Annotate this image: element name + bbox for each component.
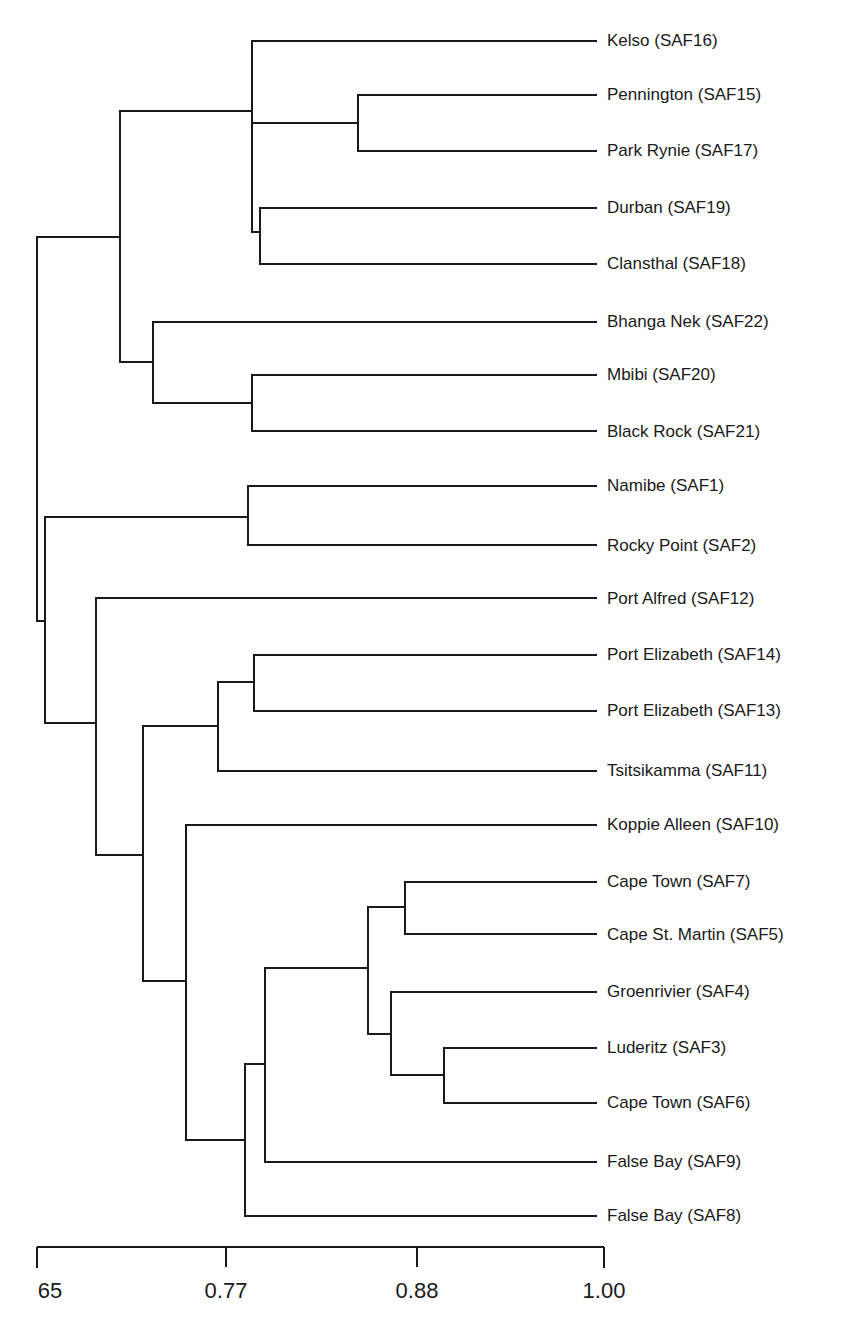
leaf-label: Park Rynie (SAF17): [607, 141, 758, 161]
leaf-label: Groenrivier (SAF4): [607, 982, 750, 1002]
leaf-label: Clansthal (SAF18): [607, 254, 746, 274]
leaf-label: False Bay (SAF9): [607, 1152, 741, 1172]
axis-tick-label: 0.77: [205, 1278, 248, 1304]
node-namibe-rocky: [45, 486, 248, 545]
leaf-label: Koppie Alleen (SAF10): [607, 815, 779, 835]
leaf-label: Tsitsikamma (SAF11): [607, 761, 767, 781]
leaf-label: Kelso (SAF16): [607, 31, 718, 51]
axis-tick-label: 1.00: [583, 1278, 626, 1304]
node-false-bay-9-group: [245, 968, 265, 1162]
node-penn-park: [252, 95, 358, 151]
x-axis: [37, 1247, 604, 1268]
leaf-label: Port Alfred (SAF12): [607, 589, 754, 609]
node-groenrivier-group: [368, 992, 391, 1075]
node-capetown7-stmartin: [368, 882, 405, 934]
node-durban-clansthal: [253, 208, 260, 264]
node-root: [37, 237, 45, 621]
axis-tick-label: 0.88: [396, 1278, 439, 1304]
leaf-label: Pennington (SAF15): [607, 85, 761, 105]
leaf-label: False Bay (SAF8): [607, 1206, 741, 1226]
node-eastcape-group: [143, 726, 186, 981]
leaf-label: Port Elizabeth (SAF14): [607, 645, 781, 665]
leaf-label: Cape St. Martin (SAF5): [607, 925, 784, 945]
axis-tick-label: 65: [38, 1278, 62, 1304]
node-west-coast-group: [265, 907, 368, 1034]
node-port-elizabeth: [218, 655, 254, 711]
leaf-label: Cape Town (SAF6): [607, 1093, 750, 1113]
leaf-label: Mbibi (SAF20): [607, 365, 716, 385]
leaf-label: Cape Town (SAF7): [607, 872, 750, 892]
node-tsitsikamma-group: [143, 682, 218, 771]
leaf-label: Luderitz (SAF3): [607, 1038, 726, 1058]
leaf-label: Black Rock (SAF21): [607, 422, 760, 442]
node-bhanga-group: [120, 322, 153, 403]
node-koppie-group: [186, 825, 245, 1140]
leaf-label: Namibe (SAF1): [607, 476, 724, 496]
leaf-label: Durban (SAF19): [607, 198, 731, 218]
node-port-alfred-group: [96, 598, 143, 855]
leaf-label: Port Elizabeth (SAF13): [607, 701, 781, 721]
dendrogram-branches: [37, 41, 596, 1216]
node-southern-cluster: [45, 517, 96, 723]
node-northern-cluster: [37, 111, 120, 362]
node-mbibi-blackrock: [153, 375, 252, 431]
leaf-label: Rocky Point (SAF2): [607, 536, 756, 556]
leaf-label: Bhanga Nek (SAF22): [607, 312, 769, 332]
node-luderitz-capetown6: [391, 1048, 444, 1103]
